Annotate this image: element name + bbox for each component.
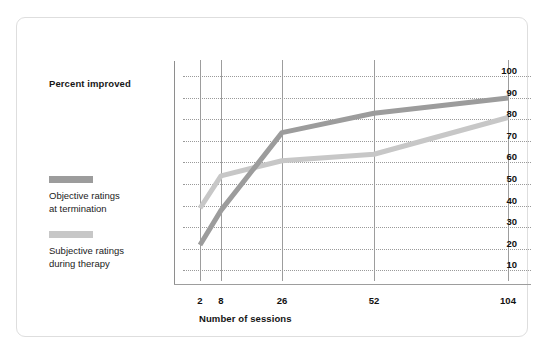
legend-label-objective: Objective ratings at termination — [49, 190, 120, 215]
x-tick-label-104: 104 — [500, 295, 516, 306]
x-tick-label-52: 52 — [369, 295, 380, 306]
legend-item-objective-ratings[interactable]: Objective ratings at termination — [49, 176, 120, 215]
chart-figure: Percent improved Objective ratings at te… — [0, 0, 545, 355]
plot-area: 100908070605040302010 282652104 Number o… — [183, 63, 531, 285]
legend-swatch-objective — [49, 176, 93, 183]
x-tick-label-26: 26 — [277, 295, 288, 306]
chart-card: Percent improved Objective ratings at te… — [16, 17, 528, 337]
y-axis-line — [174, 61, 175, 285]
series-lines — [183, 63, 531, 285]
legend-label-subjective: Subjective ratings during therapy — [49, 245, 124, 270]
x-tick-label-8: 8 — [218, 295, 223, 306]
legend-swatch-subjective — [49, 231, 93, 238]
legend: Percent improved Objective ratings at te… — [49, 78, 167, 89]
legend-item-subjective-ratings[interactable]: Subjective ratings during therapy — [49, 231, 124, 270]
x-axis-title: Number of sessions — [199, 313, 292, 324]
y-axis-title: Percent improved — [49, 78, 167, 89]
x-tick-label-2: 2 — [197, 295, 202, 306]
series-line — [200, 118, 508, 209]
